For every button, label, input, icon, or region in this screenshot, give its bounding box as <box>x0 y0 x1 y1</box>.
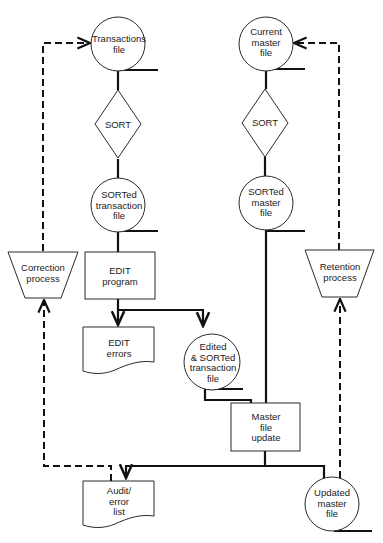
label-line: update <box>251 433 280 444</box>
edit-program-label: EDIT program <box>102 266 137 287</box>
label-line: errors <box>107 348 132 359</box>
current-master-file-label: Current master file <box>250 27 282 59</box>
flow-lines <box>118 69 372 531</box>
label-line: file <box>190 374 236 385</box>
label-line: Correction <box>21 263 65 274</box>
label-line: Master <box>251 412 280 423</box>
updated-master-file-label: Updated master file <box>314 488 350 520</box>
label-line: transaction <box>190 363 236 374</box>
transactions-file-label: Transactions file <box>92 34 146 55</box>
audit-error-list-label: Audit/ error list <box>107 486 131 518</box>
sorted-transaction-file-label: SORTed transaction file <box>96 190 142 222</box>
label-line: Retention <box>320 262 361 273</box>
label-line: file <box>96 211 142 222</box>
label-line: list <box>107 507 131 518</box>
sorted-master-file-label: SORTed master file <box>248 187 284 219</box>
label-line: file <box>92 44 146 55</box>
label-line: Transactions <box>92 34 146 45</box>
edit-errors-label: EDIT errors <box>107 338 132 359</box>
label-line: EDIT <box>107 338 132 349</box>
master-file-update-label: Master file update <box>251 412 280 444</box>
label-line: Edited <box>190 342 236 353</box>
label-line: Updated <box>314 488 350 499</box>
label-line: process <box>320 272 361 283</box>
label-line: EDIT <box>102 266 137 277</box>
sort-right-label: SORT <box>252 118 278 129</box>
sort-left-label: SORT <box>105 120 131 131</box>
label-line: program <box>102 276 137 287</box>
retention-process-label: Retention process <box>320 262 361 283</box>
label-line: SORT <box>252 118 278 129</box>
label-line: Current <box>250 27 282 38</box>
label-line: SORTed <box>248 187 284 198</box>
label-line: Audit/ <box>107 486 131 497</box>
correction-process-label: Correction process <box>21 263 65 284</box>
label-line: file <box>248 208 284 219</box>
label-line: file <box>314 509 350 520</box>
label-line: SORT <box>105 120 131 131</box>
edited-sorted-transaction-file-label: Edited & SORTed transaction file <box>190 342 236 384</box>
label-line: SORTed <box>96 190 142 201</box>
label-line: file <box>250 48 282 59</box>
label-line: process <box>21 273 65 284</box>
